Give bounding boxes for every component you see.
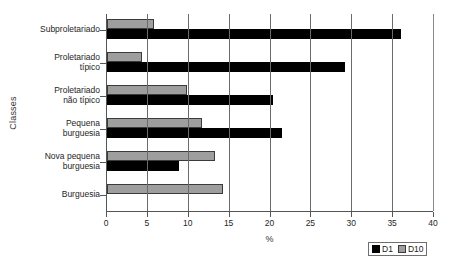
bar-chart: Classes SubproletariadoProletariadotípic… [0,0,449,266]
y-axis-label-5: Burguesia [0,189,100,199]
y-tick [100,129,106,130]
x-tick-40 [433,212,434,217]
x-tick-label-15: 15 [214,218,244,228]
y-axis-label-line: burguesia [0,161,100,171]
legend-label-d1: D1 [382,244,393,254]
gridline-40 [433,14,434,211]
legend-swatch-d10-icon [398,245,406,253]
x-tick-label-25: 25 [295,218,325,228]
bar-d1 [107,161,179,171]
y-axis-label-line: típico [0,62,100,72]
x-tick-5 [147,212,148,217]
x-tick-label-40: 40 [418,218,448,228]
x-tick-10 [188,212,189,217]
bar-d10 [107,184,223,194]
bar-d1 [107,62,345,72]
y-tick [100,63,106,64]
gridline-35 [392,14,393,211]
y-axis-label-line: Subproletariado [0,24,100,34]
y-axis-label-line: Pequena [0,118,100,128]
y-tick [100,96,106,97]
legend-swatch-d1-icon [372,245,380,253]
bar-d1 [107,95,273,105]
bar-d1 [107,128,282,138]
y-tick [100,30,106,31]
legend-item-d10: D10 [398,244,424,254]
y-axis-label-line: Proletariado [0,85,100,95]
x-tick-30 [351,212,352,217]
y-axis-label-2: Proletariadonão típico [0,85,100,105]
bar-d10 [107,151,215,161]
y-tick [100,195,106,196]
gridline-30 [351,14,352,211]
gridline-10 [188,14,189,211]
legend-item-d1: D1 [372,244,393,254]
x-tick-15 [229,212,230,217]
bar-d1 [107,29,401,39]
y-axis-label-line: Nova pequena [0,151,100,161]
gridline-20 [270,14,271,211]
x-tick-label-35: 35 [377,218,407,228]
legend: D1 D10 [368,242,427,256]
y-axis-label-4: Nova pequenaburguesia [0,151,100,171]
bar-d10 [107,52,142,62]
y-axis-label-1: Proletariadotípico [0,52,100,72]
gridline-15 [229,14,230,211]
legend-label-d10: D10 [408,244,424,254]
y-axis-label-line: burguesia [0,128,100,138]
gridline-5 [147,14,148,211]
x-tick-35 [392,212,393,217]
gridline-25 [310,14,311,211]
x-tick-20 [270,212,271,217]
y-tick [100,162,106,163]
x-tick-label-30: 30 [336,218,366,228]
x-tick-label-10: 10 [173,218,203,228]
y-axis-label-line: não típico [0,95,100,105]
y-axis-label-line: Proletariado [0,52,100,62]
x-tick-0 [106,212,107,217]
y-axis-label-line: Burguesia [0,189,100,199]
y-axis-label-0: Subproletariado [0,24,100,34]
x-tick-25 [310,212,311,217]
x-tick-label-5: 5 [132,218,162,228]
x-tick-label-0: 0 [91,218,121,228]
x-tick-label-20: 20 [255,218,285,228]
y-axis-label-3: Pequenaburguesia [0,118,100,138]
